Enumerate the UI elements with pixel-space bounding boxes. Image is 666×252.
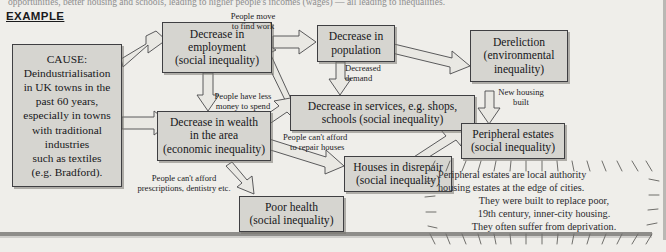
cant-afford-prescriptions-line-2: prescriptions, dentistry etc. [137, 183, 230, 193]
wealth-line-1: Decrease in wealth [163, 116, 265, 129]
diagram-stage: opportunities, better housing and school… [0, 0, 666, 252]
decrease-in-population-box[interactable]: Decrease in population [317, 25, 395, 62]
wealth-line-2: in the area [163, 129, 265, 142]
label-cant-afford-repair-houses: People can't afford to repair houses [283, 133, 375, 152]
move-to-find-work-line-2: to find work [232, 21, 275, 31]
health-line-2: (social inequality) [249, 214, 333, 227]
arrow-cause-to-employment [121, 31, 166, 67]
population-line-1: Decrease in [329, 30, 383, 43]
note-line-1: Peripheral estates are local authority [438, 168, 650, 181]
cause-line-5: especially in towns [23, 108, 110, 122]
dereliction-line-2: (environmental [484, 49, 555, 62]
cause-line-2: Deindustrialisation [23, 66, 110, 80]
cant-afford-prescriptions-line-1: People can't afford [152, 173, 216, 183]
less-money-line-1: People have less [215, 91, 272, 101]
note-line-4: 19th century, inner-city housing. [438, 207, 650, 220]
dereliction-line-1: Dereliction [484, 36, 555, 49]
note-line-3: They were built to replace poor, [438, 194, 650, 207]
services-line-1: Decrease in services, e.g. shops, [308, 100, 457, 113]
label-people-move-to-find-work: People move to find work [220, 12, 286, 31]
arrow-employment-to-population [273, 30, 316, 54]
cause-line-1: CAUSE: [23, 52, 110, 66]
health-line-1: Poor health [249, 201, 333, 214]
dereliction-line-3: inequality) [484, 63, 555, 76]
note-text: Peripheral estates are local authority h… [438, 168, 650, 233]
note-line-5: They often suffer from deprivation. [438, 220, 650, 233]
less-money-line-2: money to spend [216, 101, 270, 111]
cause-line-8: such as textiles [23, 151, 110, 165]
label-new-housing-built: New housing built [492, 88, 550, 107]
decrease-in-services-box[interactable]: Decrease in services, e.g. shops, school… [290, 95, 475, 131]
move-to-find-work-line-1: People move [231, 11, 276, 21]
poor-health-box[interactable]: Poor health (social inequality) [239, 196, 344, 232]
cause-line-4: past 60 years, [23, 94, 110, 108]
peripheral-estates-note: Peripheral estates are local authority h… [424, 160, 660, 246]
estates-line-1: Peripheral estates [471, 128, 555, 141]
label-decreased-demand: Decreased demand [345, 64, 395, 83]
dereliction-box[interactable]: Dereliction (environmental inequality) [470, 30, 568, 82]
estates-line-2: (social inequality) [471, 141, 555, 154]
new-housing-built-line-1: New housing [498, 87, 544, 97]
cause-line-7: industries [23, 137, 110, 151]
decreased-demand-line-2: demand [345, 73, 372, 83]
decrease-in-wealth-box[interactable]: Decrease in wealth in the area (economic… [157, 111, 271, 161]
wealth-line-3: (economic inequality) [163, 143, 265, 156]
services-line-2: schools (social inequality) [308, 113, 457, 126]
cause-line-9: (e.g. Bradford). [23, 165, 110, 179]
employment-line-2: employment [175, 41, 259, 54]
note-line-2: housing estates at the edge of cities. [438, 181, 650, 194]
decreased-demand-line-1: Decreased [345, 63, 381, 73]
cant-afford-repair-line-1: People can't afford [283, 132, 347, 142]
employment-line-3: (social inequality) [175, 54, 259, 67]
population-line-2: population [329, 44, 383, 57]
new-housing-built-line-2: built [513, 97, 529, 107]
peripheral-estates-box[interactable]: Peripheral estates (social inequality) [461, 123, 565, 159]
cause-line-3: in UK towns in the [23, 80, 110, 94]
label-people-have-less-money: People have less money to spend [199, 92, 287, 111]
cant-afford-repair-line-2: to repair houses [290, 143, 344, 153]
cause-box[interactable]: CAUSE: Deindustrialisation in UK towns i… [12, 44, 122, 187]
cause-line-6: with traditional [23, 123, 110, 137]
label-cant-afford-prescriptions: People can't afford prescriptions, denti… [121, 174, 247, 193]
